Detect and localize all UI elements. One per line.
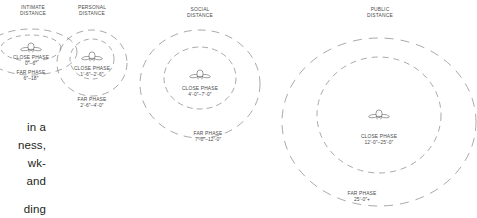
caption-public-close: CLOSE PHASE 12′-0″–25′-0″ — [349, 134, 409, 146]
person-top-view-icon — [190, 70, 211, 79]
zone-personal-rings — [56, 27, 128, 99]
close-phase-ring — [317, 57, 441, 173]
close-phase-label: CLOSE PHASE — [361, 134, 397, 139]
far-phase-range: 6″–18″ — [0, 76, 64, 82]
caption-social-close: CLOSE PHASE 4′-0″–7′-0″ — [170, 86, 230, 98]
zone-social — [139, 27, 261, 143]
far-phase-label: FAR PHASE — [17, 70, 46, 75]
body-text-line: wk- — [0, 157, 46, 170]
person-top-view-icon — [21, 43, 42, 52]
proxemics-diagram: in a ness, wk- and ding INTIMATE DISTANC… — [0, 0, 477, 218]
zone-public — [281, 27, 477, 218]
far-phase-label: FAR PHASE — [194, 131, 223, 136]
close-phase-label: CLOSE PHASE — [74, 66, 110, 71]
zone-heading-public: PUBLIC DISTANCE — [350, 7, 410, 19]
caption-public-far: FAR PHASE 25′-0″+ — [332, 191, 392, 203]
far-phase-ring — [282, 38, 476, 206]
far-phase-range: 25′-0″+ — [332, 197, 392, 203]
caption-social-far: FAR PHASE 7′-0″–12′-0″ — [178, 131, 238, 143]
zone-public-rings — [281, 27, 477, 218]
zone-personal — [56, 27, 128, 99]
far-phase-ring — [57, 30, 127, 96]
body-text-line: ding — [0, 203, 46, 216]
person-top-view-icon — [369, 110, 390, 119]
far-phase-range: 7′-0″–12′-0″ — [178, 137, 238, 143]
close-phase-label: CLOSE PHASE — [182, 86, 218, 91]
close-phase-label: CLOSE PHASE — [13, 55, 49, 60]
far-phase-label: FAR PHASE — [78, 97, 107, 102]
body-text-line: ness, — [0, 139, 46, 152]
zone-heading-personal: PERSONAL DISTANCE — [62, 5, 122, 17]
zone-heading-intimate: INTIMATE DISTANCE — [0, 5, 66, 17]
person-top-view-icon — [82, 52, 103, 61]
close-phase-range: 4′-0″–7′-0″ — [170, 92, 230, 98]
caption-intimate-far: FAR PHASE 6″–18″ — [0, 70, 64, 82]
far-phase-label: FAR PHASE — [348, 191, 377, 196]
zone-heading-social: SOCIAL DISTANCE — [170, 7, 230, 19]
close-phase-range: 0″–6″ — [0, 61, 64, 67]
body-text-line: and — [0, 175, 46, 188]
close-phase-range: 12′-0″–25′-0″ — [349, 140, 409, 146]
body-text-line: in a — [0, 121, 46, 134]
caption-personal-far: FAR PHASE 2′-6″–4′-0″ — [62, 97, 122, 109]
zone-social-rings — [139, 27, 261, 143]
caption-intimate-close: CLOSE PHASE 0″–6″ — [0, 55, 64, 67]
caption-personal-close: CLOSE PHASE 1′-6″–2′-6″ — [62, 66, 122, 78]
close-phase-range: 1′-6″–2′-6″ — [62, 72, 122, 78]
far-phase-ring — [140, 30, 260, 138]
far-phase-range: 2′-6″–4′-0″ — [62, 103, 122, 109]
